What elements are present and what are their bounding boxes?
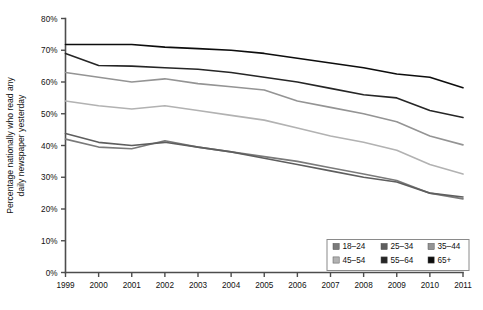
x-tick-label: 2011 <box>454 281 472 290</box>
x-tick-label: 2009 <box>388 281 407 290</box>
x-tick-label: 2000 <box>90 281 109 290</box>
legend-label: 55–64 <box>391 256 414 265</box>
y-axis-title-line-2: daily newspaper yesterday <box>16 94 26 196</box>
legend-label: 35–44 <box>438 242 461 251</box>
x-tick-label: 2001 <box>123 281 142 290</box>
legend-swatch <box>428 257 434 263</box>
x-tick-label: 2008 <box>355 281 374 290</box>
x-tick-label: 2003 <box>189 281 208 290</box>
series-line-45-54 <box>66 101 464 174</box>
y-tick-label: 70% <box>41 46 57 55</box>
legend-swatch <box>333 257 339 263</box>
x-axis-ticks: 1999200020012002200320042005200620072008… <box>56 273 472 290</box>
x-tick-label: 1999 <box>56 281 75 290</box>
chart-svg: Percentage nationally who read any daily… <box>0 0 483 310</box>
y-tick-label: 50% <box>41 110 57 119</box>
y-tick-label: 20% <box>41 205 57 214</box>
legend-label: 45–54 <box>343 256 366 265</box>
series-lines <box>66 45 464 199</box>
line-chart: Percentage nationally who read any daily… <box>0 0 483 310</box>
x-tick-label: 2004 <box>222 281 241 290</box>
x-tick-label: 2010 <box>421 281 440 290</box>
legend-swatch <box>381 257 387 263</box>
y-tick-label: 30% <box>41 173 57 182</box>
x-tick-label: 2007 <box>321 281 340 290</box>
y-tick-label: 60% <box>41 78 57 87</box>
legend-swatch <box>428 243 434 249</box>
y-axis-title: Percentage nationally who read any daily… <box>5 76 26 213</box>
y-axis-title-line-1: Percentage nationally who read any <box>5 76 15 213</box>
y-tick-label: 80% <box>41 15 57 24</box>
series-line-25-34 <box>66 133 464 197</box>
x-tick-label: 2005 <box>255 281 274 290</box>
y-tick-label: 40% <box>41 142 57 151</box>
chart-legend: 18–2425–3435–4445–5455–6465+ <box>327 240 469 271</box>
legend-label: 25–34 <box>391 242 414 251</box>
series-line-18-24 <box>66 139 464 199</box>
x-tick-label: 2006 <box>288 281 307 290</box>
x-tick-label: 2002 <box>156 281 175 290</box>
legend-label: 65+ <box>438 256 452 265</box>
y-axis-ticks: 0%10%20%30%40%50%60%70%80% <box>41 15 65 278</box>
y-tick-label: 0% <box>46 269 58 278</box>
legend-swatch <box>381 243 387 249</box>
legend-swatch <box>333 243 339 249</box>
legend-label: 18–24 <box>343 242 366 251</box>
y-tick-label: 10% <box>41 237 57 246</box>
